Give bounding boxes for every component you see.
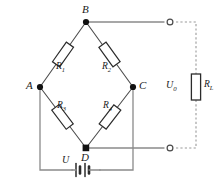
node-dot-c: [130, 84, 136, 90]
output-label-u0: U0: [166, 80, 177, 93]
battery-symbol: [72, 164, 100, 177]
dashed-top-lead: [176, 22, 196, 74]
source-label-u: U: [62, 155, 69, 168]
node-label-a: A: [26, 80, 33, 91]
resistor-label-r2: R2: [102, 62, 111, 73]
node-label-b: B: [82, 4, 89, 15]
resistor-label-r4: R4: [103, 101, 112, 112]
circuit-diagram: A B C D R1 R2 R3 R4 RL U U0: [0, 0, 220, 190]
terminal-bottom-open-circle: [167, 145, 173, 151]
resistor-rl: [191, 74, 200, 100]
resistor-label-rl: RL: [204, 80, 213, 91]
node-label-d: D: [81, 152, 89, 163]
circuit-schematic-canvas: [0, 0, 220, 190]
dashed-bottom-lead: [176, 100, 196, 148]
node-dot-b: [83, 19, 89, 25]
resistor-label-r3: R3: [57, 101, 66, 112]
node-dot-a: [37, 84, 43, 90]
resistor-label-r1: R1: [56, 62, 65, 73]
terminal-top-open-circle: [167, 19, 173, 25]
node-label-c: C: [139, 80, 146, 91]
